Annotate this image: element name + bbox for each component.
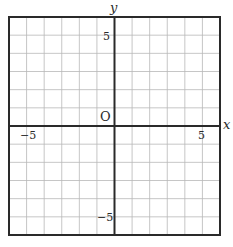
y-tick-label-neg5: −5 — [97, 212, 113, 223]
y-tick-label-5: 5 — [103, 31, 110, 42]
x-tick-label-5: 5 — [198, 130, 205, 141]
y-axis-label: y — [110, 1, 117, 14]
coordinate-plane — [0, 0, 233, 247]
x-axis-label: x — [223, 118, 230, 131]
origin-label: O — [100, 110, 111, 123]
x-tick-label-neg5: −5 — [20, 130, 36, 141]
